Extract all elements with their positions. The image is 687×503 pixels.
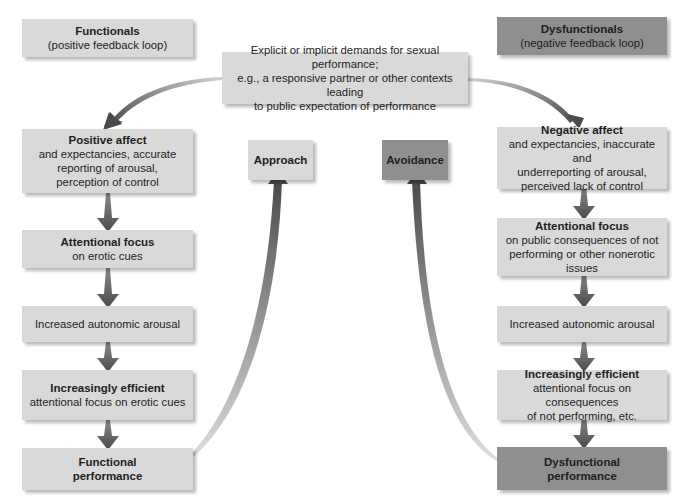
arrow-to-avoidance: [407, 170, 502, 463]
positive-affect-line-3: perception of control: [56, 175, 158, 189]
positive-affect-line-2: reporting of arousal,: [57, 161, 157, 175]
arrow-to-positive-affect: [103, 77, 222, 130]
left-attentional-focus-line-1: on erotic cues: [72, 249, 142, 263]
left-autonomic-arousal-text: Increased autonomic arousal: [35, 317, 180, 331]
left-efficient-focus-box: Increasingly efficient attentional focus…: [22, 370, 193, 420]
functionals-header: Functionals (positive feedback loop): [22, 19, 193, 57]
demands-line-3: to public expectation of performance: [254, 99, 436, 113]
dysfunctional-performance-title: Dysfunctional: [544, 455, 620, 469]
approach-box: Approach: [248, 140, 313, 180]
dysfunctional-performance-title-2: performance: [547, 469, 617, 483]
avoidance-box: Avoidance: [382, 140, 448, 180]
functionals-title: Functionals: [75, 24, 140, 38]
positive-affect-line-1: and expectancies, accurate: [39, 147, 177, 161]
right-efficient-focus-box: Increasingly efficient attentional focus…: [497, 370, 667, 420]
functionals-subtitle: (positive feedback loop): [48, 38, 167, 52]
right-attentional-focus-line-2: performing or other nonerotic: [509, 247, 655, 261]
approach-label: Approach: [254, 153, 308, 167]
right-attentional-focus-line-3: issues: [566, 261, 598, 275]
functional-performance-box: Functional performance: [22, 448, 193, 490]
negative-affect-line-3: perceived lack of control: [521, 179, 643, 193]
arrow-to-negative-affect: [468, 78, 584, 129]
functional-performance-title: Functional: [78, 455, 136, 469]
left-efficient-focus-line-1: attentional focus on erotic cues: [30, 395, 186, 409]
right-attentional-focus-box: Attentional focus on public consequences…: [497, 218, 667, 276]
dysfunctional-performance-box: Dysfunctional performance: [497, 447, 667, 490]
right-attentional-focus-line-1: on public consequences of not: [506, 233, 659, 247]
demands-box: Explicit or implicit demands for sexual …: [222, 52, 468, 104]
right-efficient-focus-title: Increasingly efficient: [525, 367, 639, 381]
functional-performance-title-2: performance: [73, 469, 143, 483]
dysfunctionals-subtitle: (negative feedback loop): [520, 36, 644, 50]
negative-affect-line-1: and expectancies, inaccurate and: [503, 137, 661, 165]
left-efficient-focus-title: Increasingly efficient: [50, 381, 164, 395]
demands-line-2: e.g., a responsive partner or other cont…: [228, 71, 462, 99]
right-autonomic-arousal-box: Increased autonomic arousal: [497, 306, 667, 342]
negative-affect-line-2: underreporting of arousal,: [517, 165, 646, 179]
arrow-to-approach: [183, 170, 288, 464]
dysfunctionals-title: Dysfunctionals: [541, 22, 623, 36]
right-attentional-focus-title: Attentional focus: [535, 219, 629, 233]
negative-affect-title: Negative affect: [541, 123, 623, 137]
left-attentional-focus-box: Attentional focus on erotic cues: [22, 230, 193, 268]
demands-line-1: Explicit or implicit demands for sexual …: [228, 43, 462, 71]
negative-affect-box: Negative affect and expectancies, inaccu…: [497, 127, 667, 189]
left-attentional-focus-title: Attentional focus: [61, 235, 155, 249]
positive-affect-title: Positive affect: [69, 133, 147, 147]
right-efficient-focus-line-1: attentional focus on consequences: [503, 381, 661, 409]
right-autonomic-arousal-text: Increased autonomic arousal: [509, 317, 654, 331]
right-efficient-focus-line-2: of not performing, etc.: [527, 409, 637, 423]
left-autonomic-arousal-box: Increased autonomic arousal: [22, 306, 193, 342]
dysfunctionals-header: Dysfunctionals (negative feedback loop): [497, 17, 667, 55]
avoidance-label: Avoidance: [386, 153, 444, 167]
positive-affect-box: Positive affect and expectancies, accura…: [22, 129, 193, 193]
